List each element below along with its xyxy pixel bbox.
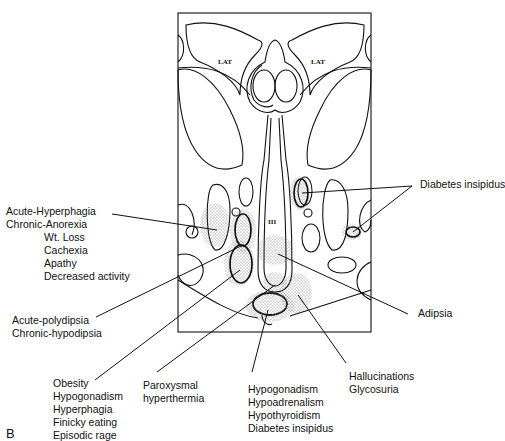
region-label-lat-left: LAT bbox=[218, 56, 232, 69]
annotation-line: Episodic rage bbox=[53, 429, 123, 441]
annotation-line: Acute-polydipsia bbox=[12, 314, 102, 327]
annotation-hallucinations: Hallucinations Glycosuria bbox=[349, 370, 414, 396]
annotation-line: Chronic-hypodipsia bbox=[12, 327, 102, 340]
annotation-line: Wt. Loss bbox=[6, 231, 130, 244]
annotation-line: Adipsia bbox=[418, 307, 452, 320]
annotation-hyperphagia: Acute-Hyperphagia Chronic-Anorexia Wt. L… bbox=[6, 205, 130, 283]
annotation-line: Glycosuria bbox=[349, 383, 414, 396]
annotation-line: Hypogonadism bbox=[53, 390, 123, 403]
region-label-lat-right: LAT bbox=[311, 56, 325, 69]
annotation-line: Decreased activity bbox=[6, 270, 130, 283]
annotation-line: Acute-Hyperphagia bbox=[6, 205, 130, 218]
annotation-obesity: Obesity Hypogonadism Hyperphagia Finicky… bbox=[53, 377, 123, 441]
leader-di-upper bbox=[302, 186, 412, 193]
annotation-hyperthermia: Paroxysmal hyperthermia bbox=[143, 379, 204, 405]
annotation-line: Paroxysmal bbox=[143, 379, 204, 392]
annotation-line: Cachexia bbox=[6, 244, 130, 257]
annotation-line: Obesity bbox=[53, 377, 123, 390]
leader-hyperthermia bbox=[157, 285, 275, 372]
annotation-line: hyperthermia bbox=[143, 392, 204, 405]
annotation-line: Diabetes insipidus bbox=[248, 422, 333, 435]
annotation-line: Hypogonadism bbox=[248, 383, 333, 396]
annotation-line: Apathy bbox=[6, 257, 130, 270]
annotation-hypogonadism: Hypogonadism Hypoadrenalism Hypothyroidi… bbox=[248, 383, 333, 435]
annotation-line: Chronic-Anorexia bbox=[6, 218, 130, 231]
annotation-line: Hypoadrenalism bbox=[248, 396, 333, 409]
annotation-line: Hypothyroidism bbox=[248, 409, 333, 422]
leader-obesity bbox=[95, 270, 240, 380]
annotation-adipsia: Adipsia bbox=[418, 307, 452, 320]
leader-hallucinations bbox=[298, 295, 346, 363]
region-label-third-ventricle: III bbox=[268, 216, 276, 229]
annotation-diabetes-insipidus: Diabetes insipidus bbox=[420, 178, 505, 191]
annotation-polydipsia: Acute-polydipsia Chronic-hypodipsia bbox=[12, 314, 102, 340]
panel-letter: B bbox=[6, 426, 15, 441]
annotation-line: Diabetes insipidus bbox=[420, 178, 505, 191]
annotation-line: Hyperphagia bbox=[53, 403, 123, 416]
annotation-line: Finicky eating bbox=[53, 416, 123, 429]
annotation-line: Hallucinations bbox=[349, 370, 414, 383]
